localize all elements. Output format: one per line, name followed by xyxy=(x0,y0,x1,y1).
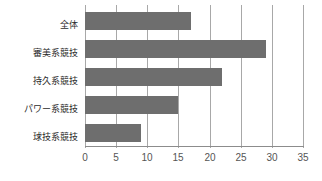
tick-label-25: 25 xyxy=(235,152,246,164)
category-label-zentai: 全体 xyxy=(60,20,78,30)
bar-zentai xyxy=(85,12,191,30)
category-label-shinbi: 審美系競技 xyxy=(33,48,78,58)
tick-label-0: 0 xyxy=(82,152,88,164)
x-axis-tick-labels: 0 5 10 15 20 25 30 35 xyxy=(0,152,322,168)
bar-jikyu xyxy=(85,68,222,86)
bar-shinbi xyxy=(85,40,266,58)
bar-power xyxy=(85,96,178,114)
gridline-35 xyxy=(303,5,304,148)
category-axis-labels: 全体 審美系競技 持久系競技 パワー系競技 球技系競技 xyxy=(0,5,82,146)
category-label-power: パワー系競技 xyxy=(24,104,78,114)
x-axis-line xyxy=(85,146,304,147)
tick-label-10: 10 xyxy=(141,152,152,164)
category-label-kyugi: 球技系競技 xyxy=(33,132,78,142)
tick-label-30: 30 xyxy=(266,152,277,164)
tick-label-5: 5 xyxy=(113,152,119,164)
bar-chart: 全体 審美系競技 持久系競技 パワー系競技 球技系競技 0 5 10 15 20… xyxy=(0,0,322,181)
plot-area xyxy=(85,5,303,146)
category-label-jikyu: 持久系競技 xyxy=(33,76,78,86)
tick-label-20: 20 xyxy=(204,152,215,164)
gridline-30 xyxy=(272,5,273,148)
tick-label-35: 35 xyxy=(297,152,308,164)
tick-label-15: 15 xyxy=(172,152,183,164)
gridline-25 xyxy=(241,5,242,148)
bar-kyugi xyxy=(85,124,141,142)
